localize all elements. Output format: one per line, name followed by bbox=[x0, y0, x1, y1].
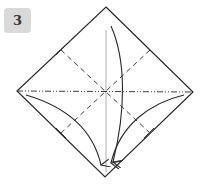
paper-square bbox=[17, 7, 193, 177]
origami-diagram bbox=[0, 0, 202, 188]
